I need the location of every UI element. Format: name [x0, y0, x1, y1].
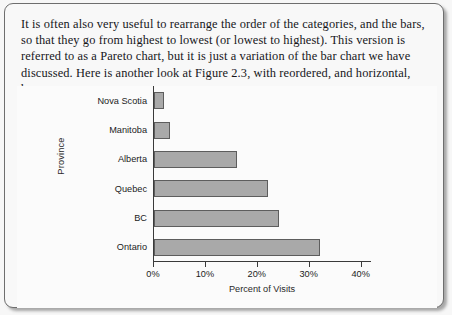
x-tick-mark: [309, 262, 310, 267]
category-label: Alberta: [118, 152, 147, 166]
plot-area: 0%10%20%30%40% Percent of Visits: [153, 86, 389, 262]
x-axis-line: [153, 261, 371, 262]
x-tick-mark: [205, 262, 206, 267]
y-axis-line: [153, 86, 154, 262]
category-label: Nova Scotia: [97, 94, 147, 108]
category-label: Manitoba: [109, 123, 147, 137]
x-axis-title: Percent of Visits: [153, 284, 371, 294]
x-tick-label: 0%: [133, 269, 173, 279]
figure-pareto-chart: Province Nova ScotiaManitobaAlbertaQuebe…: [17, 86, 437, 308]
x-tick-label: 30%: [289, 269, 329, 279]
x-tick-mark: [361, 262, 362, 267]
bar-alberta: [154, 151, 237, 168]
category-label: Ontario: [117, 240, 147, 254]
x-tick-label: 10%: [185, 269, 225, 279]
x-tick-mark: [153, 262, 154, 267]
x-tick-label: 20%: [237, 269, 277, 279]
category-axis-labels: Nova ScotiaManitobaAlbertaQuebecBCOntari…: [53, 86, 151, 262]
bar-nova-scotia: [154, 92, 164, 109]
category-label: Quebec: [115, 182, 147, 196]
bar-ontario: [154, 239, 320, 256]
x-tick-label: 40%: [341, 269, 381, 279]
body-paragraph-block: It is often also very useful to rearrang…: [21, 16, 435, 97]
chart-canvas: Province Nova ScotiaManitobaAlbertaQuebe…: [17, 86, 437, 308]
bar-bc: [154, 210, 279, 227]
bar-quebec: [154, 180, 268, 197]
body-paragraph: It is often also very useful to rearrang…: [21, 16, 435, 97]
category-label: BC: [134, 211, 147, 225]
bar-manitoba: [154, 122, 170, 139]
page-root: It is often also very useful to rearrang…: [0, 0, 452, 315]
x-tick-mark: [257, 262, 258, 267]
page-frame: It is often also very useful to rearrang…: [4, 3, 444, 308]
